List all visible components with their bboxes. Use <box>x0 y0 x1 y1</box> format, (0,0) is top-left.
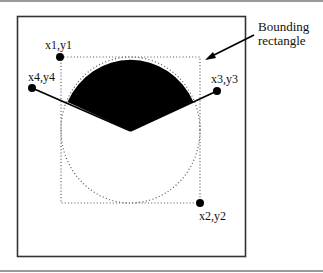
label-x1y1: x1,y1 <box>45 39 72 52</box>
point-x3y3 <box>213 87 221 95</box>
point-x1y1 <box>56 53 64 61</box>
label-x4y4: x4,y4 <box>28 71 55 84</box>
callout-arrow-line <box>210 35 254 57</box>
callout-label-line2: rectangle <box>258 34 306 47</box>
point-x2y2 <box>196 199 204 207</box>
pie-wedge <box>68 60 194 131</box>
arrow-head-icon <box>205 52 216 60</box>
point-x4y4 <box>28 84 36 92</box>
label-x2y2: x2,y2 <box>199 210 226 223</box>
label-x3y3: x3,y3 <box>211 73 238 86</box>
callout-label-line1: Bounding <box>258 20 309 33</box>
